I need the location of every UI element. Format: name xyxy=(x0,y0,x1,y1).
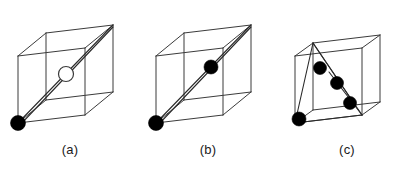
atom-filled-corner-b xyxy=(149,116,164,131)
cube-a-edge-conn-tl xyxy=(18,33,46,56)
cube-b-edge-conn-tr xyxy=(223,25,251,48)
cube-a-edge-front-top xyxy=(18,48,85,56)
cube-b-edge-front-top xyxy=(156,48,223,56)
panel-c: (c) xyxy=(277,0,417,172)
cube-diagram-c xyxy=(277,0,419,140)
caption-c: (c) xyxy=(277,142,417,157)
atom-filled-path-c-1 xyxy=(314,62,327,75)
cube-a-edge-back-bottom xyxy=(46,92,113,100)
atom-filled-corner-a xyxy=(11,116,26,131)
caption-a: (a) xyxy=(0,142,140,157)
atom-open-body-center-a xyxy=(59,67,74,82)
atom-filled-path-c-2 xyxy=(331,77,344,90)
caption-b: (b) xyxy=(138,142,278,157)
atom-filled-body-center-b xyxy=(204,60,218,74)
cube-diagram-b xyxy=(138,0,278,140)
atom-filled-corner-c xyxy=(292,112,306,126)
diffusion-path-b-shadow xyxy=(158,27,251,125)
panel-b: (b) xyxy=(138,0,278,172)
figure-root: (a) (b) xyxy=(0,0,419,172)
cube-b-edge-conn-br xyxy=(223,92,251,115)
cube-b-edge-back-top xyxy=(184,25,251,33)
diffusion-path-b xyxy=(156,25,251,123)
cube-diagram-a xyxy=(0,0,140,140)
cube-b-edge-back-bottom xyxy=(184,92,251,100)
cube-a-edge-conn-br xyxy=(85,92,113,115)
cube-b-edge-conn-tl xyxy=(156,33,184,56)
panel-a: (a) xyxy=(0,0,140,172)
cube-a-edge-back-top xyxy=(46,25,113,33)
atom-filled-path-c-3 xyxy=(344,97,357,110)
cube-a-edge-conn-tr xyxy=(85,25,113,48)
